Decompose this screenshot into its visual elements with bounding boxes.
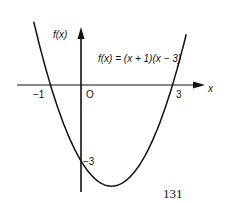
x-axis-arrow-icon bbox=[193, 82, 205, 89]
x-axis-label: x bbox=[208, 84, 213, 94]
page-number: 131 bbox=[163, 187, 183, 200]
root-right-label: 3 bbox=[176, 90, 182, 100]
equation-label: f(x) = (x + 1)(x − 3) bbox=[98, 54, 181, 64]
parabola-graph bbox=[0, 0, 226, 203]
origin-label: O bbox=[86, 90, 94, 100]
y-axis-arrow-icon bbox=[78, 27, 85, 39]
root-left-label: −1 bbox=[33, 90, 44, 100]
y-intercept-label: −3 bbox=[83, 157, 94, 167]
parabola-curve bbox=[0, 0, 56, 68]
parabola-curve bbox=[34, 22, 187, 187]
y-axis-label: f(x) bbox=[53, 30, 67, 40]
